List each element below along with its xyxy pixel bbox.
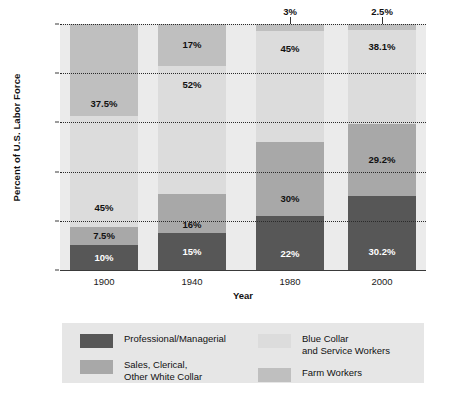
- legend-label: Blue Collar and Service Workers: [302, 333, 390, 356]
- segment-farm-1940[interactable]: 17%: [158, 24, 226, 66]
- segment-value: 16%: [182, 220, 201, 230]
- bar-1940[interactable]: 15% 16% 52% 17%: [158, 24, 226, 270]
- x-tick-label-1980: 1980: [256, 276, 324, 287]
- segment-value: 10%: [94, 253, 113, 263]
- segment-blue-collar-2000[interactable]: 38.1%: [348, 30, 416, 124]
- legend-swatch-sales-icon: [80, 360, 113, 374]
- x-tick-label-2000: 2000: [348, 276, 416, 287]
- x-tick-label-1940: 1940: [158, 276, 226, 287]
- segment-value: 30%: [280, 194, 299, 204]
- legend-column-right: Blue Collar and Service Workers Farm Wor…: [258, 333, 390, 393]
- y-tickmark-20: [55, 220, 59, 221]
- segment-professional-2000[interactable]: 30.2%: [348, 196, 416, 270]
- segment-value: 45%: [280, 44, 299, 54]
- x-axis-title: Year: [60, 290, 426, 301]
- segment-value: 15%: [182, 247, 201, 257]
- legend-column-left: Professional/Managerial Sales, Clerical,…: [80, 333, 226, 393]
- segment-value: 45%: [94, 203, 113, 213]
- segment-sales-1900[interactable]: 7.5%: [70, 227, 138, 245]
- bar-1900[interactable]: 10% 7.5% 45% 37.5%: [70, 24, 138, 270]
- legend-item-blue-collar[interactable]: Blue Collar and Service Workers: [258, 333, 390, 356]
- segment-blue-collar-1940[interactable]: 52%: [158, 66, 226, 194]
- x-tick-label-1900: 1900: [70, 276, 138, 287]
- bar-1980[interactable]: 22% 30% 45% 3%: [256, 24, 324, 270]
- legend-item-farm[interactable]: Farm Workers: [258, 367, 390, 382]
- segment-blue-collar-1980[interactable]: 45%: [256, 31, 324, 142]
- segment-professional-1980[interactable]: 22%: [256, 216, 324, 270]
- legend-label: Sales, Clerical, Other White Collar: [124, 359, 202, 382]
- legend-label: Professional/Managerial: [124, 333, 226, 345]
- segment-value: 38.1%: [369, 42, 396, 52]
- segment-value: 37.5%: [91, 99, 118, 109]
- segment-sales-2000[interactable]: 29.2%: [348, 124, 416, 196]
- segment-value: 17%: [182, 40, 201, 50]
- legend-swatch-blue-collar-icon: [258, 334, 291, 348]
- segment-farm-2000[interactable]: 2.5%: [348, 24, 416, 30]
- legend-swatch-farm-icon: [258, 368, 291, 382]
- axis-baseline: [60, 270, 426, 271]
- segment-professional-1940[interactable]: 15%: [158, 233, 226, 270]
- chart-legend: Professional/Managerial Sales, Clerical,…: [62, 323, 424, 383]
- y-tickmark-60: [55, 122, 59, 123]
- segment-value: 30.2%: [369, 247, 396, 257]
- segment-blue-collar-1900[interactable]: 45%: [70, 116, 138, 227]
- segment-value: 52%: [182, 80, 201, 90]
- segment-value-outside: 2.5%: [352, 6, 412, 24]
- bar-2000[interactable]: 30.2% 29.2% 38.1% 2.5%: [348, 24, 416, 270]
- legend-item-sales[interactable]: Sales, Clerical, Other White Collar: [80, 359, 226, 382]
- y-axis-title: Percent of U.S. Labor Force: [11, 38, 22, 238]
- y-tickmark-40: [55, 171, 59, 172]
- legend-item-professional[interactable]: Professional/Managerial: [80, 333, 226, 348]
- segment-farm-1900[interactable]: 37.5%: [70, 24, 138, 116]
- legend-swatch-professional-icon: [80, 334, 113, 348]
- segment-value: 29.2%: [369, 155, 396, 165]
- segment-sales-1940[interactable]: 16%: [158, 194, 226, 233]
- y-tickmark-100: [55, 24, 59, 25]
- segment-value: 22%: [280, 249, 299, 259]
- segment-professional-1900[interactable]: 10%: [70, 245, 138, 270]
- chart-figure: Percent of U.S. Labor Force 100 80 60 40…: [0, 0, 459, 395]
- segment-farm-1980[interactable]: 3%: [256, 24, 324, 31]
- legend-label: Farm Workers: [302, 367, 362, 379]
- plot-wrapper: Percent of U.S. Labor Force 100 80 60 40…: [0, 0, 459, 300]
- segment-value-outside: 3%: [260, 6, 320, 24]
- plot-area: 100 80 60 40 20 0 10% 7.5% 45% 37.5%: [60, 24, 426, 270]
- segment-sales-1980[interactable]: 30%: [256, 142, 324, 216]
- segment-value: 7.5%: [93, 231, 115, 241]
- y-tickmark-80: [55, 73, 59, 74]
- y-tickmark-0: [55, 270, 59, 271]
